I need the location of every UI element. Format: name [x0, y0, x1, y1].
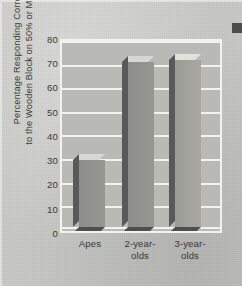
plot-area [60, 39, 222, 233]
x-label-2-year-olds: 2-year- olds [112, 238, 168, 262]
bar-3-year-olds-base-shadow [169, 227, 201, 233]
bar-apes-front-face [79, 160, 105, 227]
x-axis-tick-labels: Apes 2-year- olds 3-year- olds [60, 238, 222, 278]
y-tick-40: 40 [36, 130, 58, 141]
x-label-3-year-olds-line-2: olds [162, 250, 218, 262]
x-label-3-year-olds: 3-year- olds [162, 238, 218, 262]
bar-2-year-olds [128, 62, 154, 227]
y-tick-50: 50 [36, 106, 58, 117]
y-tick-70: 70 [36, 58, 58, 69]
y-tick-80: 80 [36, 34, 58, 45]
x-label-3-year-olds-line-1: 3-year- [162, 238, 218, 250]
y-axis-title: Percentage Responding Correctly to the W… [6, 0, 40, 152]
corner-mark [232, 23, 242, 33]
gridline-80 [62, 41, 220, 43]
bar-apes [79, 160, 105, 227]
y-tick-60: 60 [36, 82, 58, 93]
bar-apes-base-shadow [73, 227, 105, 233]
plot-inner [62, 41, 220, 231]
x-label-2-year-olds-line-1: 2-year- [112, 238, 168, 250]
bar-3-year-olds-front-face [175, 60, 201, 227]
y-axis-title-line-2: to the Wooden Block on 50% or More Trial… [23, 0, 36, 145]
bar-2-year-olds-base-shadow [122, 227, 154, 233]
bar-2-year-olds-front-face [128, 62, 154, 227]
x-label-apes: Apes [62, 238, 118, 250]
y-tick-10: 10 [36, 203, 58, 214]
chart-figure: Percentage Responding Correctly to the W… [0, 0, 242, 286]
x-label-2-year-olds-line-2: olds [112, 250, 168, 262]
y-tick-0: 0 [36, 227, 58, 238]
y-axis-tick-labels: 80 70 60 50 40 30 20 10 0 [36, 39, 58, 233]
y-tick-30: 30 [36, 155, 58, 166]
bar-3-year-olds [175, 60, 201, 227]
x-label-apes-line-1: Apes [62, 238, 118, 250]
y-axis-title-line-1: Percentage Responding Correctly [11, 0, 24, 124]
y-tick-20: 20 [36, 179, 58, 190]
